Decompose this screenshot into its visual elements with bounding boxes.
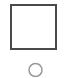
circle-outline-icon — [29, 64, 42, 77]
square-outline-icon — [11, 5, 56, 49]
shapes-drawing — [0, 0, 66, 78]
shape-canvas — [0, 0, 66, 78]
